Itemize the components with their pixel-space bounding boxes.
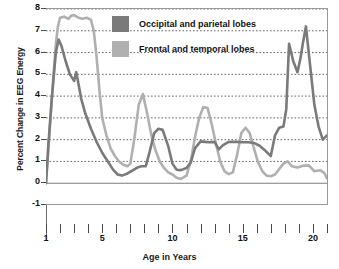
x-tick-minor [257, 224, 258, 233]
y-tick-label: 8 [24, 2, 40, 12]
y-tick-label: -1 [24, 198, 40, 208]
x-tick-minor [74, 224, 75, 233]
x-tick-minor [130, 224, 131, 233]
x-tick-minor [46, 224, 47, 233]
y-tick-label: 7 [24, 24, 40, 34]
x-tick-minor [172, 224, 173, 233]
x-tick-minor [299, 224, 300, 233]
x-tick-minor [271, 224, 272, 233]
chart-legend: Occipital and parietal lobes Frontal and… [112, 16, 256, 66]
x-tick-minor [327, 224, 328, 233]
legend-item-frontal-temporal: Frontal and temporal lobes [112, 41, 256, 57]
y-tick-label: 0 [24, 176, 40, 186]
y-tick-label: 1 [24, 154, 40, 164]
x-tick-minor [285, 224, 286, 233]
x-tick-label: 5 [90, 233, 114, 243]
y-tick-label: 4 [24, 89, 40, 99]
legend-swatch-occipital-parietal [112, 16, 129, 32]
x-tick-label: 15 [231, 233, 255, 243]
legend-item-occipital-parietal: Occipital and parietal lobes [112, 16, 256, 32]
x-tick-minor [88, 224, 89, 233]
eeg-energy-line-chart: Percent Change in EEG Energy -1012345678… [0, 0, 339, 269]
x-tick-minor [229, 224, 230, 233]
x-axis-title: Age in Years [0, 252, 339, 262]
y-tick-label: 6 [24, 46, 40, 56]
x-tick-label: 10 [160, 233, 184, 243]
legend-label-occipital-parietal: Occipital and parietal lobes [139, 19, 256, 29]
x-tick-minor [144, 224, 145, 233]
legend-label-frontal-temporal: Frontal and temporal lobes [139, 44, 255, 54]
legend-swatch-frontal-temporal [112, 41, 129, 57]
x-tick-minor [215, 224, 216, 233]
x-tick-minor [187, 224, 188, 233]
y-tick-label: 2 [24, 133, 40, 143]
x-tick-minor [243, 224, 244, 233]
y-tick-label: 3 [24, 111, 40, 121]
x-tick-minor [60, 224, 61, 233]
y-tick-label: 5 [24, 67, 40, 77]
x-tick-label: 1 [34, 233, 58, 243]
x-tick-label: 20 [301, 233, 325, 243]
x-tick-minor [116, 224, 117, 233]
x-tick-minor [313, 224, 314, 233]
x-tick-minor [201, 224, 202, 233]
x-tick-minor [158, 224, 159, 233]
x-tick-minor [102, 224, 103, 233]
